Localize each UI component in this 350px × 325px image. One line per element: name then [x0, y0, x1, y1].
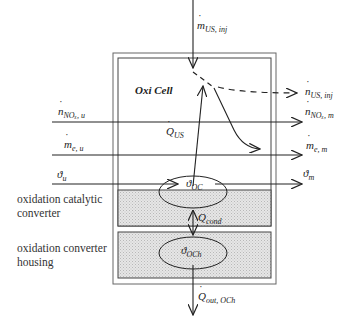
label-converter-housing: oxidation converter housing [17, 241, 107, 269]
label-q-us: QUS [166, 126, 184, 140]
label-theta-oc: ϑOC [186, 178, 203, 192]
label-catalytic-converter: oxidation catalytic converter [17, 192, 102, 220]
label-theta-och: ϑOCh [181, 245, 202, 259]
label-m-us-inj: mUS, inj [197, 20, 227, 34]
label-theta-u: ϑu [57, 169, 66, 183]
label-q-cond: Qcond [198, 212, 222, 226]
label-n-nox-m: nNOₓ, m [305, 106, 334, 120]
oxi-cell-diagram: Oxi Cell mUS, inj nUS, inj nNOₓ, u nNOₓ,… [0, 0, 350, 325]
label-m-e-m: me, m [306, 140, 327, 154]
label-n-nox-u: nNOₓ, u [58, 106, 85, 120]
oxi-cell-label: Oxi Cell [135, 85, 173, 96]
label-m-e-u: me, u [64, 139, 84, 153]
label-q-out-och: Qout, OCh [198, 291, 235, 305]
diagram-lines [0, 0, 350, 325]
label-theta-m: ϑm [303, 168, 314, 182]
